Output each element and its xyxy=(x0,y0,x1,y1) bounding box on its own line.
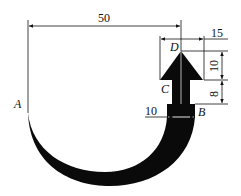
arrow-head xyxy=(160,51,203,80)
base-block xyxy=(167,104,195,118)
dim-10-vert-label: 10 xyxy=(207,60,221,72)
dim-50-label: 50 xyxy=(98,11,110,25)
crescent-shape xyxy=(28,113,195,186)
dim-15-label: 15 xyxy=(211,26,223,40)
diagram: 50 15 10 8 10 A B C D xyxy=(0,0,241,196)
dim-10-base-label: 10 xyxy=(145,104,157,118)
point-d-label: D xyxy=(169,40,179,54)
point-a-label: A xyxy=(13,97,22,111)
point-c-label: C xyxy=(161,82,170,96)
dim-8-vert-label: 8 xyxy=(207,91,221,97)
point-b-label: B xyxy=(198,105,206,119)
